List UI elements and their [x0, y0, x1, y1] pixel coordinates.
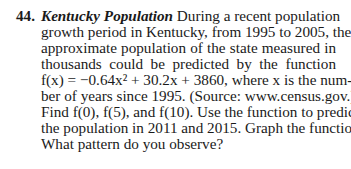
line-text: During a recent population	[177, 7, 340, 24]
exercise-line-4: thousands could be predicted by the func…	[41, 56, 336, 72]
exercise-line-2: growth period in Kentucky, from 1995 to …	[41, 24, 336, 40]
exercise-line-7: Find f(0), f(5), and f(10). Use the func…	[41, 104, 336, 120]
exercise-line-5: f(x) = −0.64x² + 30.2x + 3860, where x i…	[41, 72, 336, 88]
exercise-line-1: Kentucky Population During a recent popu…	[41, 8, 336, 24]
exercise-body: Kentucky Population During a recent popu…	[41, 8, 336, 152]
exercise-line-6: ber of years since 1995. (Source: www.ce…	[41, 88, 336, 104]
textbook-exercise: 44. Kentucky Population During a recent …	[16, 8, 336, 152]
exercise-title: Kentucky Population	[41, 7, 173, 24]
exercise-number: 44.	[16, 8, 35, 24]
exercise-line-8: the population in 2011 and 2015. Graph t…	[41, 120, 336, 136]
exercise-line-9: What pattern do you observe?	[41, 136, 336, 152]
exercise-line-3: approximate population of the state meas…	[41, 40, 336, 56]
